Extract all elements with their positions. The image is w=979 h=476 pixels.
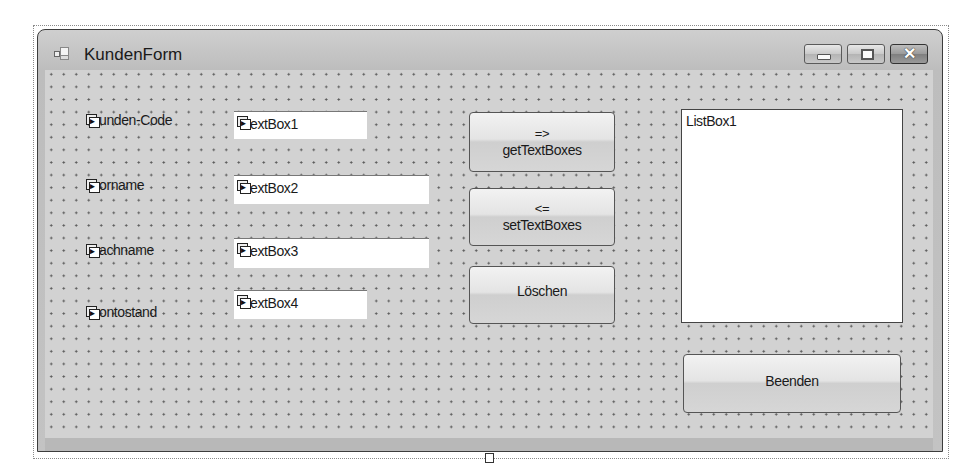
- beenden-button[interactable]: Beenden: [683, 354, 901, 413]
- resize-handle[interactable]: [485, 453, 494, 463]
- control-smart-tag-icon: ▸: [86, 306, 99, 319]
- title-bar[interactable]: KundenForm ✕: [38, 30, 942, 70]
- form-client-area: ▸ unden-Code ▸ orname ▸ achname ▸ ontost…: [45, 70, 933, 438]
- control-smart-tag-icon: ▸: [237, 180, 250, 193]
- maximize-icon: [861, 49, 874, 60]
- minimize-icon: [817, 54, 831, 60]
- label-text: ontostand: [99, 304, 157, 320]
- textbox-4[interactable]: ▸ extBox4: [234, 290, 367, 319]
- control-smart-tag-icon: ▸: [86, 244, 99, 257]
- maximize-button[interactable]: [847, 44, 885, 64]
- label-text: unden-Code: [99, 112, 172, 128]
- window-title: KundenForm: [84, 45, 182, 65]
- form-icon: [54, 47, 68, 59]
- control-smart-tag-icon: ▸: [86, 114, 99, 127]
- button-label: getTextBoxes: [502, 142, 581, 159]
- list-item[interactable]: ListBox1: [686, 113, 898, 129]
- textbox-2[interactable]: ▸ extBox2: [234, 175, 429, 204]
- label-kontostand[interactable]: ▸ ontostand: [86, 304, 157, 320]
- button-label: Beenden: [765, 373, 818, 390]
- label-text: orname: [99, 177, 144, 193]
- label-text: achname: [99, 242, 154, 258]
- textbox-3[interactable]: ▸ extBox3: [234, 238, 429, 268]
- close-icon: ✕: [891, 44, 927, 63]
- button-label: Löschen: [517, 283, 567, 300]
- control-smart-tag-icon: ▸: [237, 295, 250, 308]
- control-smart-tag-icon: ▸: [237, 116, 250, 129]
- button-arrow-text: =>: [535, 125, 549, 142]
- label-nachname[interactable]: ▸ achname: [86, 242, 154, 258]
- loeschen-button[interactable]: Löschen: [469, 266, 615, 324]
- label-vorname[interactable]: ▸ orname: [86, 177, 144, 193]
- textbox-1[interactable]: ▸ extBox1: [234, 111, 367, 139]
- textbox-text: extBox4: [250, 295, 298, 311]
- control-smart-tag-icon: ▸: [86, 179, 99, 192]
- listbox-1[interactable]: ListBox1: [681, 109, 903, 323]
- label-kunden-code[interactable]: ▸ unden-Code: [86, 112, 172, 128]
- close-button[interactable]: ✕: [890, 44, 928, 64]
- textbox-text: extBox2: [250, 180, 298, 196]
- form-bottom-border: [45, 438, 933, 451]
- kunden-form-window: KundenForm ✕ ▸ unden-Code ▸ orname ▸ ach…: [37, 29, 943, 452]
- textbox-text: extBox3: [250, 243, 298, 259]
- set-textboxes-button[interactable]: <= setTextBoxes: [469, 188, 615, 246]
- control-smart-tag-icon: ▸: [237, 243, 250, 256]
- button-label: setTextBoxes: [503, 217, 581, 234]
- textbox-text: extBox1: [250, 116, 298, 132]
- get-textboxes-button[interactable]: => getTextBoxes: [469, 112, 615, 172]
- minimize-button[interactable]: [804, 44, 842, 64]
- button-arrow-text: <=: [535, 200, 549, 217]
